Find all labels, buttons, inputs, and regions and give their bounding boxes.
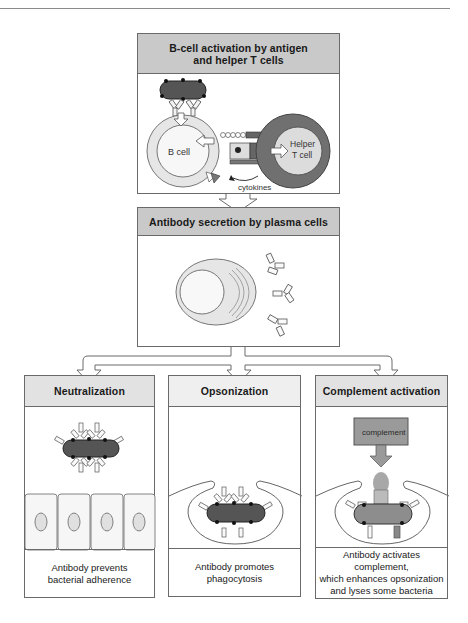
activation-illustration: B cell Helper T cell cytokines [138, 34, 341, 195]
outcome-caption-complement: Antibody activates complement, which enh… [316, 547, 447, 598]
outcome-caption-neutralization: Antibody prevents bacterial adherence [25, 549, 154, 597]
plasma-cell-icon [176, 259, 256, 325]
complement-label: complement [362, 428, 406, 437]
outcome-box-complement: Complement activation complement Antibod… [315, 375, 448, 599]
stage-box-activation: B-cell activation by antigen and helper … [137, 33, 340, 194]
cytokine-arrow-icon [233, 176, 258, 181]
secreted-antibody-icons [266, 253, 294, 336]
helper-t-label-1: Helper [290, 139, 315, 149]
stage-box-secretion: Antibody secretion by plasma cells [137, 207, 340, 347]
helper-t-label-2: T cell [292, 150, 312, 160]
bacterium-icon [354, 503, 412, 525]
outcome-box-neutralization: Neutralization Antibody prevents bac [24, 375, 155, 598]
plasma-cell-illustration [138, 208, 341, 348]
bacterium-icon [207, 501, 265, 525]
membrane-attack-complex-icon [373, 472, 389, 504]
cytokines-label: cytokines [238, 183, 271, 192]
bcr-antibody-icons [169, 100, 201, 116]
outcome-caption-opsonization: Antibody promotes phagocytosis [169, 548, 300, 596]
epithelial-cells-icon [25, 494, 155, 550]
complement-arrow-icon [370, 445, 392, 467]
complement-box-icon: complement [354, 418, 408, 445]
bacterium-icon [160, 78, 206, 101]
outcome-box-opsonization: Opsonization Antibody promotes phagocyto… [168, 375, 301, 597]
bacterium-icon [63, 437, 119, 460]
b-cell-label: B cell [168, 147, 190, 157]
